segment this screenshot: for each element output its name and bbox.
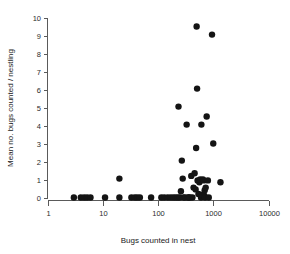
data-point [203, 113, 209, 119]
y-tick-label: 4 [37, 122, 41, 131]
x-tick-label: 10000 [259, 209, 280, 218]
y-tick-label: 8 [37, 50, 41, 59]
y-tick-label: 6 [37, 86, 41, 95]
data-point [71, 194, 77, 200]
data-point [148, 194, 154, 200]
y-tick-label: 9 [37, 32, 41, 41]
x-tick-label: 1000 [205, 209, 222, 218]
x-tick-label: 1 [46, 209, 50, 218]
y-tick-group: 012345678910 [33, 14, 48, 203]
x-tick-label: 10 [99, 209, 107, 218]
data-point [180, 175, 186, 181]
data-point [217, 179, 223, 185]
x-axis-title: Bugs counted in nest [121, 236, 196, 245]
data-point [206, 194, 212, 200]
data-point [178, 188, 184, 194]
data-point [209, 31, 215, 37]
data-point [87, 194, 93, 200]
data-points-group [71, 23, 224, 200]
data-point [210, 140, 216, 146]
data-point [198, 121, 204, 127]
data-point [191, 170, 197, 176]
data-point [205, 177, 211, 183]
data-point [116, 194, 122, 200]
x-tick-label: 100 [152, 209, 165, 218]
data-point [183, 121, 189, 127]
data-point [194, 85, 200, 91]
plot-canvas: 012345678910 110100100010000 Bugs counte… [0, 0, 290, 254]
data-point [102, 194, 108, 200]
data-point [137, 194, 143, 200]
y-tick-label: 7 [37, 68, 41, 77]
data-point [179, 157, 185, 163]
y-tick-label: 3 [37, 140, 41, 149]
y-tick-label: 5 [37, 104, 41, 113]
y-tick-label: 10 [33, 14, 41, 23]
data-point [203, 184, 209, 190]
data-point [116, 175, 122, 181]
y-tick-label: 1 [37, 176, 41, 185]
data-point [189, 194, 195, 200]
axis-group [48, 18, 269, 201]
data-point [193, 23, 199, 29]
x-tick-group: 110100100010000 [46, 201, 280, 219]
scatter-chart: 012345678910 110100100010000 Bugs counte… [0, 0, 290, 254]
y-tick-label: 0 [37, 194, 41, 203]
y-tick-label: 2 [37, 158, 41, 167]
y-axis-title: Mean no. bugs counted / nestling [6, 49, 15, 167]
data-point [193, 145, 199, 151]
data-point [175, 103, 181, 109]
